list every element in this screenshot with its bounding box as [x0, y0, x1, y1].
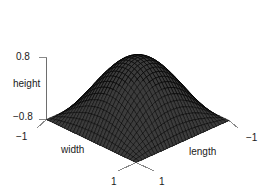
x-tick-label-max: 1	[111, 176, 117, 187]
y-axis-title: length	[189, 146, 216, 157]
z-tick-label-bottom: −0.8	[13, 111, 33, 122]
perspective-plot-canvas	[0, 0, 266, 193]
x-axis-title: width	[61, 144, 84, 155]
y-tick-label-max: 1	[159, 176, 165, 187]
y-tick-label-min: −1	[246, 132, 257, 143]
y-tick-min-mark	[229, 121, 238, 129]
x-axis-extension	[136, 163, 154, 172]
y-axis-extension	[118, 163, 136, 172]
x-tick-label-min: −1	[16, 131, 27, 142]
z-axis-title: height	[13, 78, 40, 89]
surface-plot-figure: 0.8 −0.8 height −1 1 width −1 1 length	[0, 0, 266, 193]
z-tick-label-top: 0.8	[16, 51, 30, 62]
x-tick-min-mark	[37, 120, 47, 129]
